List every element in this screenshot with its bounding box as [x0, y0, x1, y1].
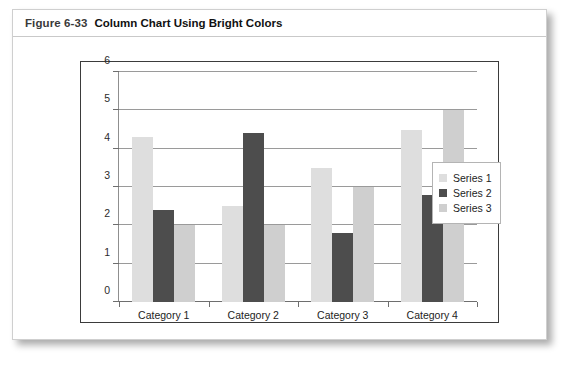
legend-swatch-icon	[439, 189, 447, 197]
category-axis-label: Category 4	[388, 309, 478, 321]
chart-legend: Series 1Series 2Series 3	[432, 162, 501, 224]
legend-label: Series 2	[453, 187, 492, 199]
y-axis-label: 6	[104, 54, 110, 66]
y-axis-label: 1	[104, 246, 110, 258]
bar[interactable]	[153, 210, 174, 302]
legend-label: Series 1	[453, 172, 492, 184]
y-axis-label: 2	[104, 207, 110, 219]
legend-swatch-icon	[439, 174, 447, 182]
y-axis-label: 3	[104, 169, 110, 181]
category-tick	[298, 302, 299, 307]
bar[interactable]	[264, 225, 285, 302]
category-tick	[119, 302, 120, 307]
bar-group: Category 2	[209, 72, 299, 302]
chart-plot-area: 0123456 Category 1Category 2Category 3Ca…	[119, 72, 477, 302]
chart-frame: 0123456 Category 1Category 2Category 3Ca…	[80, 61, 499, 323]
legend-item[interactable]: Series 3	[439, 202, 492, 214]
figure-caption-bar: Figure 6-33 Column Chart Using Bright Co…	[13, 10, 546, 37]
legend-item[interactable]: Series 2	[439, 187, 492, 199]
bar[interactable]	[243, 133, 264, 302]
bar-group: Category 1	[119, 72, 209, 302]
bar[interactable]	[222, 206, 243, 302]
category-tick	[209, 302, 210, 307]
legend-label: Series 3	[453, 202, 492, 214]
category-axis-label: Category 1	[119, 309, 209, 321]
bar-group: Category 3	[298, 72, 388, 302]
category-axis-label: Category 2	[209, 309, 299, 321]
y-axis-label: 5	[104, 92, 110, 104]
bar[interactable]	[353, 187, 374, 302]
bar[interactable]	[174, 225, 195, 302]
bar[interactable]	[332, 233, 353, 302]
category-tick	[477, 302, 478, 307]
y-axis-label: 0	[104, 284, 110, 296]
bar[interactable]	[311, 168, 332, 302]
y-axis-label: 4	[104, 131, 110, 143]
bars-layer: Category 1Category 2Category 3Category 4	[119, 72, 477, 302]
figure-title: Column Chart Using Bright Colors	[94, 17, 282, 29]
bar[interactable]	[132, 137, 153, 302]
category-tick	[388, 302, 389, 307]
figure-panel: Figure 6-33 Column Chart Using Bright Co…	[12, 9, 547, 340]
category-axis-label: Category 3	[298, 309, 388, 321]
bar[interactable]	[401, 130, 422, 303]
figure-number: Figure 6-33	[25, 17, 87, 29]
legend-item[interactable]: Series 1	[439, 172, 492, 184]
legend-swatch-icon	[439, 204, 447, 212]
